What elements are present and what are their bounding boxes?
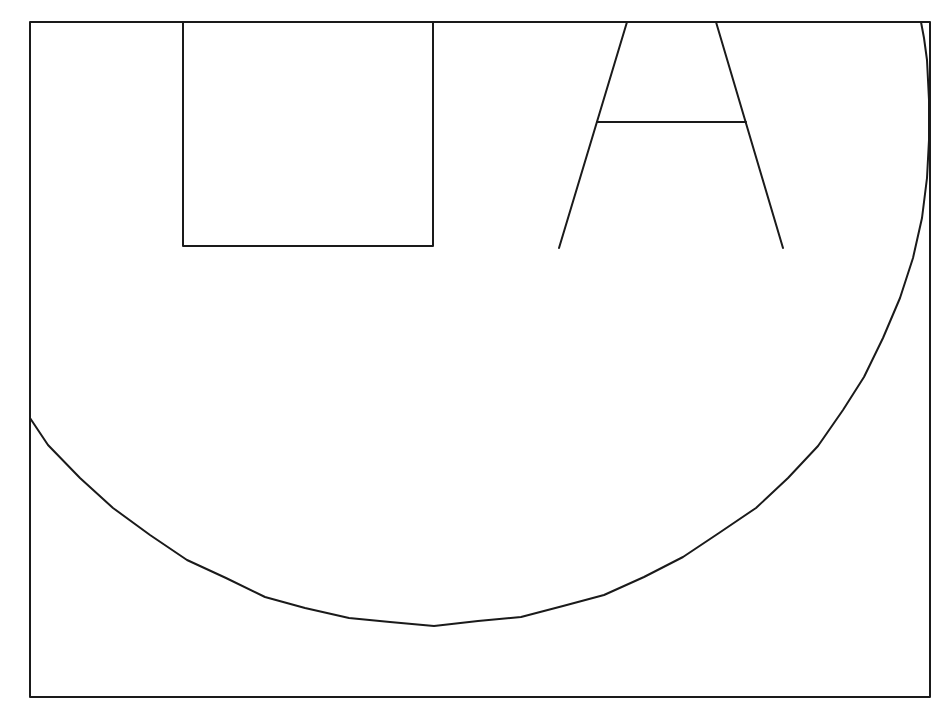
letter-a-shape <box>559 22 783 248</box>
letter-a-left-leg <box>559 22 627 248</box>
circular-arc-polyline <box>30 22 929 626</box>
square-shape <box>183 22 433 246</box>
letter-a-right-leg <box>716 22 783 248</box>
line-drawing <box>0 0 951 713</box>
outer-frame <box>30 22 930 697</box>
diagram-canvas <box>0 0 951 713</box>
